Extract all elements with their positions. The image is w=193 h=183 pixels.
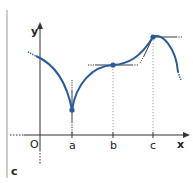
tick-label-b: b bbox=[110, 139, 117, 152]
tick-label-a: a bbox=[69, 139, 76, 152]
curve-start-dotted bbox=[28, 52, 36, 56]
panel-label: c bbox=[11, 165, 18, 178]
function-curve bbox=[36, 36, 178, 110]
origin-label: O bbox=[30, 138, 39, 151]
y-axis-label: y bbox=[31, 25, 38, 38]
tangent-c-sloped-dotted bbox=[140, 56, 144, 63]
point-a bbox=[69, 107, 74, 112]
x-axis-label: x bbox=[177, 138, 184, 151]
tick-label-c: c bbox=[150, 139, 156, 152]
curve-end-dotted bbox=[178, 72, 181, 80]
point-c bbox=[150, 34, 155, 39]
function-graph: y O a b c x c bbox=[0, 0, 193, 183]
point-b bbox=[110, 62, 115, 67]
